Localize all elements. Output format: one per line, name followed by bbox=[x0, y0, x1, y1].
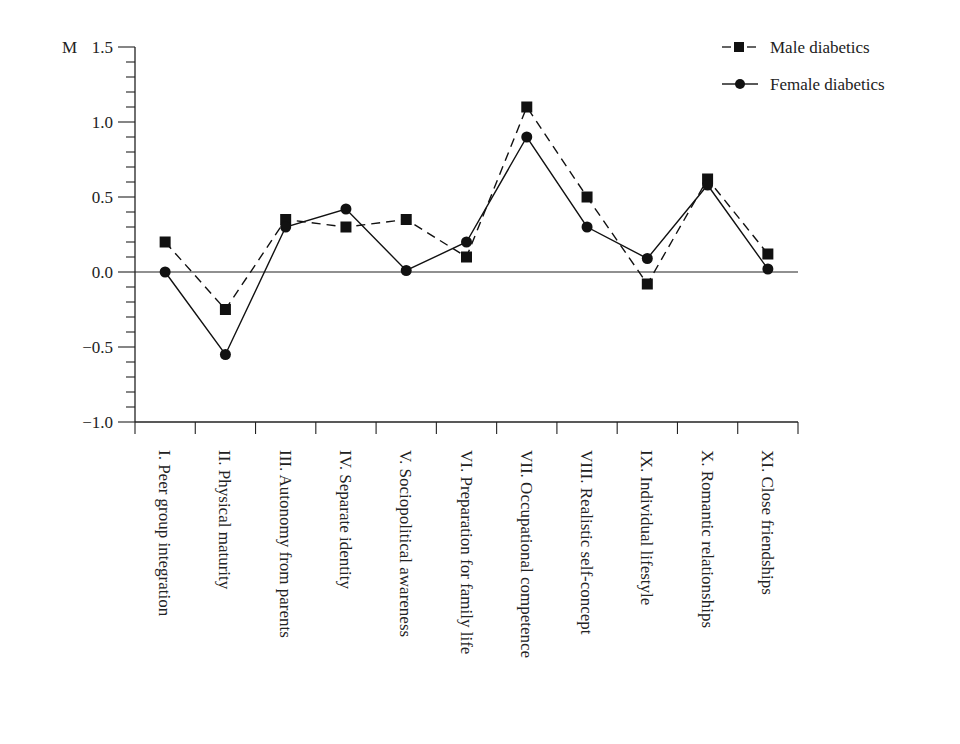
x-category-label: VII. Occupational competence bbox=[517, 450, 536, 658]
x-category-label: V. Sociopolitical awareness bbox=[396, 450, 415, 637]
x-category-label: X. Romantic relationships bbox=[698, 450, 717, 628]
x-category-label: III. Autonomy from parents bbox=[276, 450, 295, 638]
square-marker-icon bbox=[521, 102, 532, 113]
circle-marker-icon bbox=[340, 204, 351, 215]
series-layer bbox=[160, 102, 774, 361]
x-category-label: IX. Individual lifestyle bbox=[637, 450, 656, 605]
square-marker-icon bbox=[220, 304, 231, 315]
legend: Male diabetics Female diabetics bbox=[722, 38, 885, 94]
square-marker-icon bbox=[582, 192, 593, 203]
square-marker-icon bbox=[461, 252, 472, 263]
circle-marker-icon bbox=[461, 237, 472, 248]
x-category-label: XI. Close friendships bbox=[758, 450, 777, 595]
legend-item-female: Female diabetics bbox=[722, 75, 885, 94]
line-chart: −1.0−0.50.00.51.01.5 I. Peer group integ… bbox=[0, 0, 960, 744]
circle-marker-icon bbox=[762, 264, 773, 275]
circle-marker-icon bbox=[160, 267, 171, 278]
square-marker-icon bbox=[401, 214, 412, 225]
circle-marker-icon bbox=[401, 265, 412, 276]
circle-marker-icon bbox=[702, 180, 713, 191]
y-axis-title: M bbox=[62, 38, 77, 57]
y-tick-label: −0.5 bbox=[82, 338, 113, 357]
series-female bbox=[160, 132, 774, 361]
y-tick-label: 1.5 bbox=[92, 38, 113, 57]
x-category-label: II. Physical maturity bbox=[215, 450, 234, 590]
x-category-label: VI. Preparation for family life bbox=[457, 450, 476, 654]
square-marker-icon bbox=[734, 42, 744, 52]
y-tick-label: 0.0 bbox=[92, 263, 113, 282]
x-category-label: IV. Separate identity bbox=[336, 450, 355, 589]
circle-marker-icon bbox=[735, 79, 745, 89]
circle-marker-icon bbox=[642, 253, 653, 264]
x-category-label: I. Peer group integration bbox=[155, 450, 174, 617]
circle-marker-icon bbox=[220, 349, 231, 360]
square-marker-icon bbox=[340, 222, 351, 233]
y-tick-label: 1.0 bbox=[92, 113, 113, 132]
legend-label-male: Male diabetics bbox=[770, 38, 870, 57]
y-tick-label: 0.5 bbox=[92, 188, 113, 207]
circle-marker-icon bbox=[582, 222, 593, 233]
legend-item-male: Male diabetics bbox=[722, 38, 870, 57]
square-marker-icon bbox=[160, 237, 171, 248]
y-axis: −1.0−0.50.00.51.01.5 bbox=[82, 38, 135, 432]
category-labels: I. Peer group integrationII. Physical ma… bbox=[155, 450, 777, 658]
series-male bbox=[160, 102, 774, 316]
legend-label-female: Female diabetics bbox=[770, 75, 885, 94]
square-marker-icon bbox=[762, 249, 773, 260]
square-marker-icon bbox=[642, 279, 653, 290]
circle-marker-icon bbox=[280, 222, 291, 233]
x-axis bbox=[135, 422, 798, 434]
x-category-label: VIII. Realistic self-concept bbox=[577, 450, 596, 635]
y-tick-label: −1.0 bbox=[82, 413, 113, 432]
circle-marker-icon bbox=[521, 132, 532, 143]
